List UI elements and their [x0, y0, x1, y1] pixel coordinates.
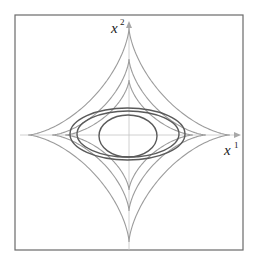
ellipse-circle	[99, 115, 157, 157]
x1-axis-label: x	[223, 142, 231, 158]
ellipse-curves	[70, 108, 185, 160]
ellipse-medium	[77, 111, 179, 157]
diagram-figure: x 2 x 1	[0, 0, 259, 262]
x2-axis-superscript: 2	[120, 17, 125, 27]
x1-axis-arrow-icon	[234, 132, 241, 138]
x2-axis-arrow-icon	[126, 21, 132, 28]
x1-axis-superscript: 1	[234, 140, 239, 150]
ellipse-wide	[70, 108, 185, 160]
x2-axis-label: x	[110, 20, 118, 36]
